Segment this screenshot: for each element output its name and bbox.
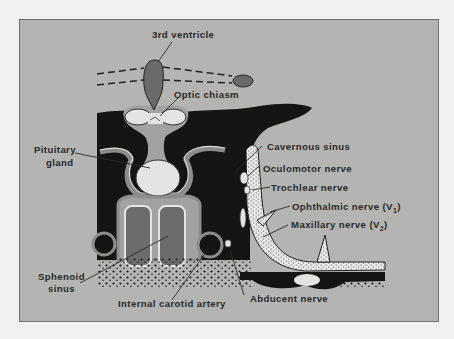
label-third-ventricle: 3rd ventricle <box>152 29 214 40</box>
label-sphenoid-sinus-2: sinus <box>48 283 75 294</box>
optic-nerve-ellipse <box>233 75 253 87</box>
foramen-ellipse <box>294 274 320 286</box>
ophthalmic-nerve-shape <box>240 208 246 228</box>
lateral-structure-left <box>93 233 115 255</box>
internal-carotid-artery <box>198 233 222 257</box>
label-maxillary-nerve: Maxillary nerve (V2) <box>291 219 388 232</box>
pituitary-gland <box>136 160 180 196</box>
label-trochlear-nerve: Trochlear nerve <box>271 182 348 193</box>
oculomotor-nerve-shape <box>240 172 248 184</box>
sphenoid-sinus-right <box>159 206 185 266</box>
label-pituitary-gland-2: gland <box>46 157 74 168</box>
anatomy-diagram: 3rd ventricle Optic chiasm Pituitary gla… <box>0 0 454 339</box>
label-oculomotor-nerve: Oculomotor nerve <box>263 163 352 174</box>
label-pituitary-gland-1: Pituitary <box>34 144 76 155</box>
dotted-bone-base <box>97 258 252 288</box>
label-ophthalmic-nerve: Ophthalmic nerve (V1) <box>292 201 401 214</box>
label-internal-carotid-artery: Internal carotid artery <box>118 298 226 309</box>
label-sphenoid-sinus-1: Sphenoid <box>38 271 85 282</box>
label-cavernous-sinus: Cavernous sinus <box>267 141 350 152</box>
label-abducent-nerve: Abducent nerve <box>250 293 328 304</box>
trochlear-nerve-shape <box>244 186 250 194</box>
abducent-nerve-shape <box>225 240 231 247</box>
label-optic-chiasm: Optic chiasm <box>174 89 239 100</box>
